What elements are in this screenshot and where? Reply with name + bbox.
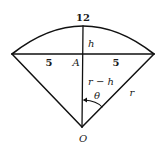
angle-arrowhead-icon	[83, 98, 87, 103]
half-chord-right-label: 5	[113, 57, 120, 68]
angle-label: θ	[94, 90, 100, 101]
center-distance-label: r − h	[88, 76, 114, 87]
vertical-segment	[82, 26, 83, 127]
arc-length-label: 12	[76, 12, 90, 23]
center-label: O	[79, 133, 87, 144]
height-label: h	[88, 38, 94, 49]
radius-label: r	[130, 87, 136, 98]
half-chord-left-label: 5	[46, 57, 53, 68]
sector-diagram: 12 h 5 A 5 r − h θ r O	[0, 0, 166, 156]
midpoint-label: A	[71, 57, 79, 68]
